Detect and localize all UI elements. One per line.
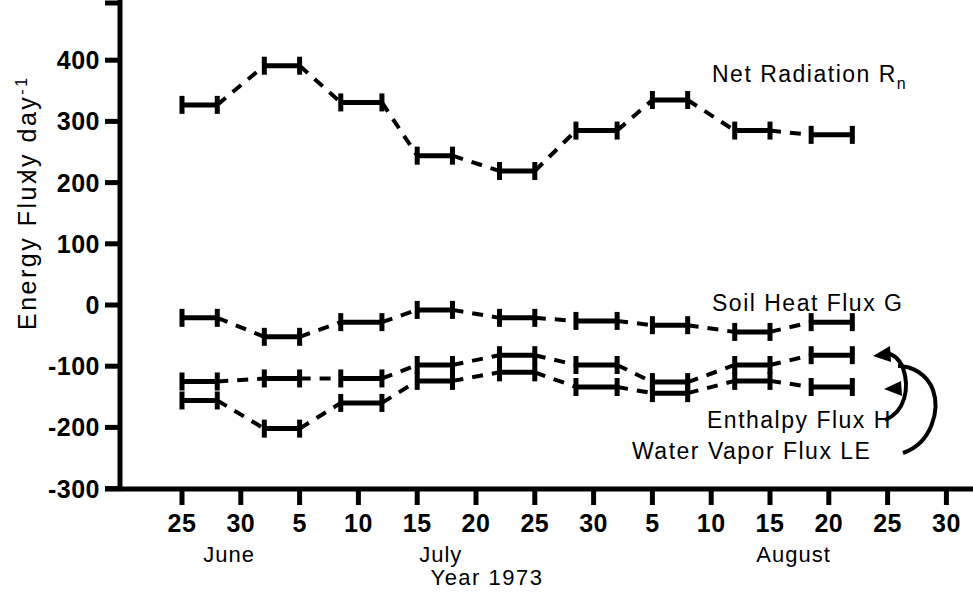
y-axis-title: Energy Flux: [13, 169, 41, 330]
month-label: July: [419, 542, 462, 567]
y-tick-label: 200: [57, 169, 100, 197]
x-axis-title: Year 1973: [430, 565, 543, 590]
x-tick-label: 10: [344, 509, 373, 537]
x-tick-label: 5: [645, 509, 659, 537]
x-tick-label: 25: [873, 509, 902, 537]
x-tick-label: 30: [579, 509, 608, 537]
x-tick-label: 30: [932, 509, 961, 537]
x-tick-label: 20: [814, 509, 843, 537]
x-tick-label: 25: [168, 509, 197, 537]
y-tick-label: -200: [48, 413, 100, 441]
month-label: June: [203, 542, 255, 567]
y-tick-label: 0: [86, 291, 100, 319]
x-tick-label: 5: [292, 509, 306, 537]
label-soil-heat-flux: Soil Heat Flux G: [712, 290, 903, 316]
y-tick-label: 400: [57, 46, 100, 74]
x-tick-label: 15: [756, 509, 785, 537]
x-tick-label: 20: [462, 509, 491, 537]
y-tick-label: 300: [57, 107, 100, 135]
chart-figure: 4003002001000-100-200-300 25305101520253…: [0, 0, 973, 600]
y-tick-label: 100: [57, 230, 100, 258]
y-axis-title-group: Energy Flux ly day-1: [13, 75, 41, 330]
month-label: August: [756, 542, 831, 567]
label-enthalpy-flux: Enthalpy Flux H: [707, 407, 892, 433]
y-tick-label: -300: [48, 475, 100, 503]
energy-flux-chart: 4003002001000-100-200-300 25305101520253…: [0, 0, 973, 600]
x-tick-label: 30: [226, 509, 255, 537]
x-tick-label: 15: [403, 509, 432, 537]
label-water-vapor-flux: Water Vapor Flux LE: [632, 438, 871, 464]
x-tick-label: 25: [520, 509, 549, 537]
y-tick-label: -100: [48, 352, 100, 380]
x-tick-label: 10: [697, 509, 726, 537]
